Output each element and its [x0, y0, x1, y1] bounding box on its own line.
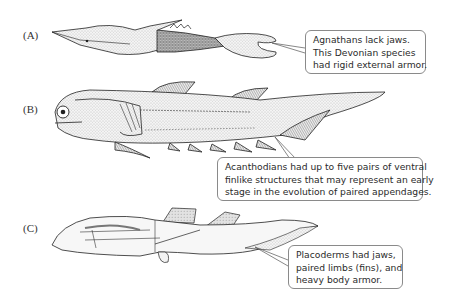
panel-label-b: (B) — [23, 103, 38, 115]
callout-pointer-b — [275, 137, 290, 159]
callout-placoderm: Placoderms had jaws, paired limbs (fins)… — [288, 245, 403, 289]
callout-line: had rigid external armor. — [313, 59, 419, 72]
callout-line: Placoderms had jaws, — [296, 249, 396, 262]
callout-line: finlike structures that may represent an… — [225, 174, 416, 187]
placoderm-illustration — [52, 208, 318, 263]
acanthodian-illustration — [55, 82, 385, 158]
agnathan-illustration — [52, 20, 276, 58]
callout-line: Acanthodians had up to five pairs of ven… — [225, 161, 416, 174]
panel-label-a: (A) — [23, 29, 38, 41]
callout-pointer-c-2 — [255, 247, 288, 266]
callout-line: Agnathans lack jaws. — [313, 34, 419, 47]
callout-pointer-a — [272, 43, 305, 48]
callout-agnathan: Agnathans lack jaws. This Devonian speci… — [305, 30, 426, 74]
callout-pointer-b-2 — [275, 137, 296, 159]
callout-line: stage in the evolution of paired appenda… — [225, 186, 416, 199]
callout-line: heavy body armor. — [296, 274, 396, 287]
callout-line: paired limbs (fins), and — [296, 262, 396, 275]
callout-pointer-a-2 — [272, 43, 305, 53]
callout-acanthodian: Acanthodians had up to five pairs of ven… — [217, 157, 423, 201]
panel-label-c: (C) — [23, 222, 38, 234]
callout-line: This Devonian species — [313, 47, 419, 60]
